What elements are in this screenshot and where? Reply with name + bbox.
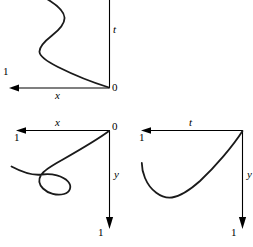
bottom-left-origin-label: 0 [112,121,118,132]
bottom-right-y-axis-arrowhead [239,217,246,229]
top-left-x-axis-arrowhead [9,85,19,92]
bottom-right-y-tick-label: 1 [231,227,237,238]
top-left-plot [9,0,110,91]
bottom-left-plot [12,127,114,229]
top-left-y-axis-label: t [113,24,116,35]
top-left-x-tick-label: 1 [3,66,9,77]
bottom-left-y-axis-arrowhead [106,217,113,229]
top-left-x-axis-label: x [55,90,60,101]
bottom-left-x-tick-label: 1 [14,132,20,143]
bottom-right-plot [141,127,246,229]
figure-root: 1 x t 0 x 1 0 y 1 t 1 y 1 [0,0,253,247]
bottom-right-curve [142,131,243,198]
bottom-left-x-axis-label: x [55,117,60,128]
bottom-right-x-axis-label: t [189,117,192,128]
bottom-right-x-tick-label: 1 [139,132,145,143]
top-left-origin-label: 0 [112,82,118,93]
top-left-curve [39,0,109,88]
bottom-left-y-axis-label: y [114,169,119,180]
bottom-left-y-tick-label: 1 [98,227,104,238]
figure-vector-layer [0,0,253,247]
bottom-right-y-axis-label: y [247,169,252,180]
bottom-left-curve [12,131,110,195]
